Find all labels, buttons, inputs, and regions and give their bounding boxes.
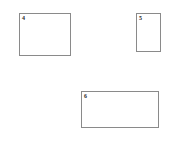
diagram-canvas: 4 5 6 [0,0,171,142]
rectangle-4[interactable]: 4 [19,13,71,56]
rectangle-5-label: 5 [139,15,142,22]
rectangle-6[interactable]: 6 [81,91,159,128]
rectangle-4-label: 4 [22,15,25,22]
rectangle-5[interactable]: 5 [136,13,161,52]
rectangle-6-label: 6 [84,93,87,100]
